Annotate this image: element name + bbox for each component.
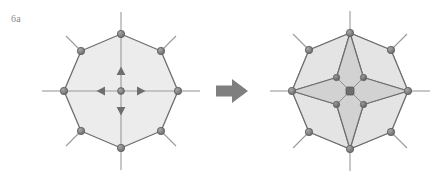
star-node-bottom-right [360, 101, 366, 107]
figure-canvas: 6a [0, 0, 436, 174]
star-node-bottom-left [333, 101, 339, 107]
vertex-node-right [404, 87, 411, 94]
vertex-node-left [288, 87, 295, 94]
diagram-svg [0, 0, 436, 174]
vertex-node-bottom-left [77, 127, 84, 134]
right-arrow-icon [216, 79, 248, 103]
center-node [118, 88, 125, 95]
star-node-top-left [333, 74, 339, 80]
vertex-node-bottom-left [305, 128, 312, 135]
vertex-node-top [117, 30, 124, 37]
transition-arrow [216, 79, 248, 103]
panel-label: 6a [11, 13, 21, 25]
right-figure-group [270, 11, 430, 171]
vertex-node-bottom-right [157, 127, 164, 134]
vertex-node-right [174, 87, 181, 94]
center-node [346, 87, 354, 95]
vertex-node-top-right [387, 46, 394, 53]
left-figure-group [42, 12, 200, 170]
vertex-node-top-right [157, 47, 164, 54]
vertex-node-bottom [117, 144, 124, 151]
vertex-node-top [346, 29, 353, 36]
vertex-node-left [60, 87, 67, 94]
vertex-node-top-left [305, 46, 312, 53]
star-node-top-right [360, 74, 366, 80]
vertex-node-top-left [77, 47, 84, 54]
vertex-node-bottom-right [387, 128, 394, 135]
vertex-node-bottom [346, 145, 353, 152]
